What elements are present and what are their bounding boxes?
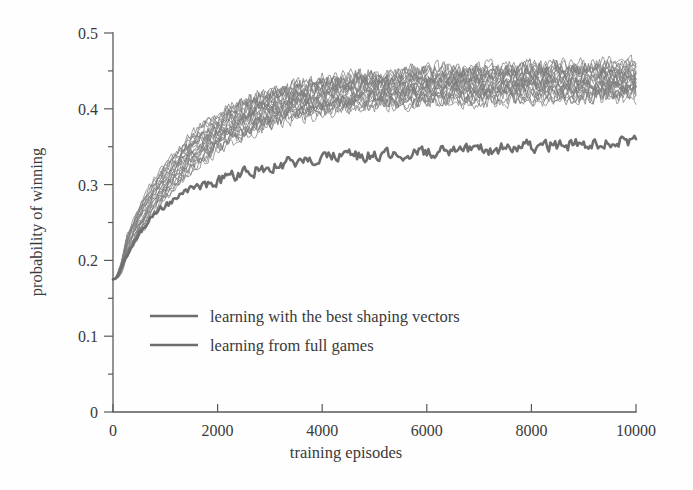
legend-label-full-games: learning from full games: [210, 336, 374, 355]
x-tick-label: 0: [109, 422, 117, 439]
legend-label-shaping-vectors: learning with the best shaping vectors: [210, 307, 460, 326]
chart-background: [0, 0, 693, 490]
x-tick-label: 6000: [411, 422, 443, 439]
x-axis-title: training episodes: [290, 443, 402, 462]
x-tick-label: 2000: [202, 422, 234, 439]
y-tick-label: 0.3: [78, 177, 98, 194]
x-tick-label: 4000: [306, 422, 338, 439]
y-tick-label: 0.4: [78, 101, 98, 118]
line-chart: 00.10.20.30.40.5 0200040006000800010000 …: [0, 0, 693, 490]
y-axis-title: probability of winning: [27, 148, 46, 296]
x-tick-label: 8000: [515, 422, 547, 439]
y-tick-label: 0.1: [78, 328, 98, 345]
y-tick-label: 0: [90, 404, 98, 421]
y-tick-label: 0.5: [78, 25, 98, 42]
y-tick-label: 0.2: [78, 252, 98, 269]
x-tick-label: 10000: [616, 422, 656, 439]
figure-container: 00.10.20.30.40.5 0200040006000800010000 …: [0, 0, 693, 490]
